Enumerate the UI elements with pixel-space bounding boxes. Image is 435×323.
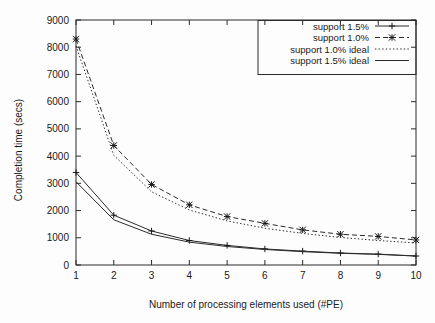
y-tick-label: 4000 xyxy=(47,151,70,162)
x-tick-label: 6 xyxy=(262,270,268,281)
y-tick-label: 5000 xyxy=(47,123,70,134)
line-chart: 0100020003000400050006000700080009000 12… xyxy=(0,0,435,323)
series-line-2 xyxy=(76,46,416,243)
x-tick-label: 5 xyxy=(224,270,230,281)
x-tick-label: 9 xyxy=(375,270,381,281)
series-line-0 xyxy=(76,172,416,256)
y-tick-label: 3000 xyxy=(47,178,70,189)
x-axis-title: Number of processing elements used (#PE) xyxy=(149,299,343,310)
y-tick-label: 1000 xyxy=(47,232,70,243)
y-tick-label: 9000 xyxy=(47,15,70,26)
y-tick-label: 8000 xyxy=(47,42,70,53)
x-tick-label: 2 xyxy=(111,270,117,281)
series-group xyxy=(73,36,419,259)
x-tick-label: 4 xyxy=(187,270,193,281)
x-tick-label: 8 xyxy=(338,270,344,281)
x-tick-label: 10 xyxy=(410,270,422,281)
x-axis-ticks: 12345678910 xyxy=(73,20,422,281)
series-line-3 xyxy=(76,182,416,256)
x-tick-label: 3 xyxy=(149,270,155,281)
series-line-1 xyxy=(76,39,416,240)
y-tick-label: 2000 xyxy=(47,205,70,216)
chart-legend: support 1.5%support 1.0%support 1.0% ide… xyxy=(258,21,416,75)
legend-label-1: support 1.0% xyxy=(313,32,370,43)
legend-label-2: support 1.0% ideal xyxy=(290,44,369,55)
x-tick-label: 7 xyxy=(300,270,306,281)
chart-container: 0100020003000400050006000700080009000 12… xyxy=(0,0,435,323)
y-tick-label: 7000 xyxy=(47,69,70,80)
y-tick-label: 0 xyxy=(63,260,69,271)
y-axis-title: Completion time (secs) xyxy=(13,99,24,201)
legend-label-0: support 1.5% xyxy=(313,21,370,32)
x-tick-label: 1 xyxy=(73,270,79,281)
y-tick-label: 6000 xyxy=(47,96,70,107)
legend-label-3: support 1.5% ideal xyxy=(290,55,369,66)
